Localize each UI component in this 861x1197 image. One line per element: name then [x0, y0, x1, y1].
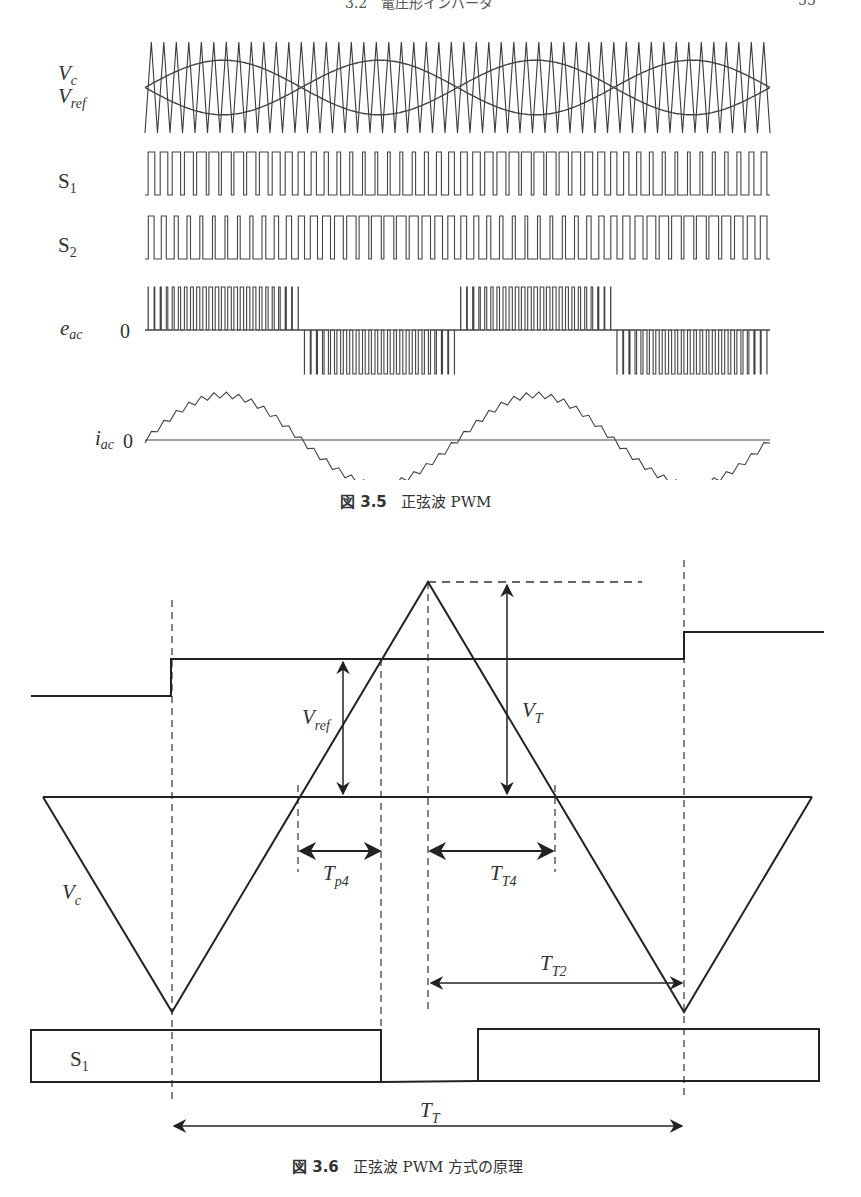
label-tt: TT [420, 1098, 441, 1126]
label-s2: S2 [58, 233, 77, 260]
label-eac-zero: 0 [120, 320, 130, 342]
label-s1: S1 [58, 169, 77, 196]
label-vref: Vref [302, 705, 332, 733]
figure-3-5-sinusoidal-pwm: Vc Vref S1 S2 eac 0 iac 0 [0, 0, 861, 480]
carrier-triangle-vc [43, 582, 812, 1012]
label-tt2: TT2 [540, 951, 566, 979]
caption-text: 正弦波 PWM 方式の原理 [353, 1158, 523, 1176]
label-tp4: Tp4 [323, 861, 349, 889]
carrier-and-reference-waveforms [145, 42, 770, 133]
label-s1: S1 [70, 1047, 89, 1074]
s1-switching-pulses [31, 1029, 819, 1082]
iac-output-current-waveform [145, 392, 770, 480]
caption-text: 正弦波 PWM [401, 493, 492, 511]
label-tt4: TT4 [490, 861, 516, 889]
label-eac: eac [60, 316, 83, 342]
s2-switching-waveform [145, 216, 770, 259]
caption-number: 図 3.5 [340, 493, 387, 511]
figure-3-5-caption: 図 3.5正弦波 PWM [340, 490, 491, 511]
label-iac-zero: 0 [123, 430, 133, 452]
reference-voltage-step [31, 632, 824, 696]
eac-output-voltage-waveform [145, 287, 770, 374]
label-iac: iac [95, 426, 115, 452]
label-vref: Vref [58, 84, 88, 111]
dashed-guide-lines [172, 560, 684, 1100]
label-vt: VT [522, 698, 544, 726]
caption-number: 図 3.6 [292, 1158, 339, 1176]
label-vc: Vc [62, 880, 82, 908]
s1-switching-waveform [145, 152, 770, 195]
figure-3-6-caption: 図 3.6正弦波 PWM 方式の原理 [292, 1155, 523, 1176]
